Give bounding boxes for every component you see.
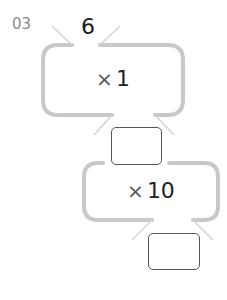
step-2-operation: ×10 (84, 178, 218, 203)
step-2-answer-box[interactable] (148, 233, 200, 270)
step-2-operand: 10 (147, 178, 175, 203)
step-1-operand: 1 (116, 66, 130, 91)
step-1-operation: ×1 (43, 66, 183, 91)
multiply-icon: × (127, 179, 144, 203)
multiply-icon: × (96, 67, 113, 91)
step-1-answer-box[interactable] (111, 127, 162, 165)
